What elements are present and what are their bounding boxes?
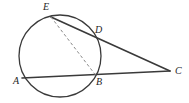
vertex-label-d: D (95, 25, 102, 35)
vertex-label-e: E (43, 2, 49, 12)
vertex-label-c: C (175, 66, 182, 76)
chord-e-b-dashed (51, 17, 96, 75)
secant-line-e-d-c (51, 17, 170, 71)
geometry-canvas (0, 0, 189, 103)
geometry-figure: A B C D E (0, 0, 189, 103)
vertex-label-b: B (96, 77, 102, 87)
vertex-label-a: A (13, 76, 19, 86)
main-circle (19, 15, 101, 97)
